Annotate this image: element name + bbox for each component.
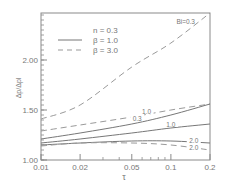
legend-entry-beta1: β = 1.0 xyxy=(93,36,118,45)
curve-label: Bi=0.3 xyxy=(176,18,195,25)
plot-frame xyxy=(41,13,210,160)
curve-label: 2.0 xyxy=(189,144,198,151)
x-tick-label: 0.2 xyxy=(204,163,216,172)
series-lines xyxy=(41,13,210,150)
legend-header: n = 0.3 xyxy=(93,26,118,35)
x-axis-label: τ xyxy=(122,172,126,182)
y-tick-label: 2.00 xyxy=(22,56,38,65)
y-axis-label: Δp/Δpl xyxy=(15,77,23,98)
x-tick-label: 0.01 xyxy=(33,163,49,172)
curve-label: 1.0 xyxy=(142,108,151,115)
curve-labels: Bi=0.31.00.31.02.02.0 xyxy=(130,17,201,151)
series-line xyxy=(41,13,210,119)
x-tick-label: 0.02 xyxy=(72,163,88,172)
y-axis-ticks: 1.001.502.00 xyxy=(22,56,47,165)
y-tick-label: 1.50 xyxy=(22,106,38,115)
curve-label: 2.0 xyxy=(189,137,198,144)
legend-entry-beta3: β = 3.0 xyxy=(93,46,118,55)
x-tick-label: 0.05 xyxy=(124,163,140,172)
legend: n = 0.3 β = 1.0 β = 3.0 xyxy=(58,26,118,55)
curve-label: 0.3 xyxy=(133,115,142,122)
curve-label: 1.0 xyxy=(166,121,175,128)
x-axis-ticks: 0.010.020.050.10.2 xyxy=(33,154,216,172)
series-line xyxy=(41,143,210,150)
x-tick-label: 0.1 xyxy=(165,163,177,172)
chart: 1.001.502.00 0.010.020.050.10.2 Bi=0.31.… xyxy=(0,0,227,187)
